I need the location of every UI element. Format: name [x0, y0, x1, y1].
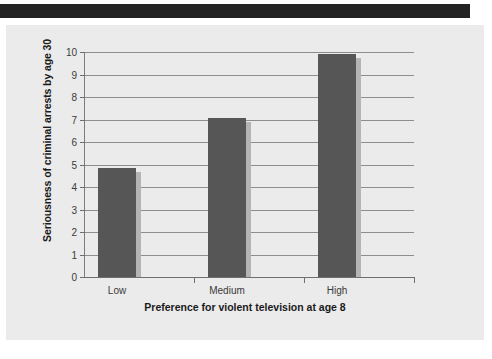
x-tick-label-low: Low [108, 285, 126, 296]
bar-medium[interactable] [208, 118, 246, 277]
y-tick-label: 3 [71, 204, 77, 215]
page-top-banner [0, 4, 470, 18]
y-tick-mark [80, 232, 85, 233]
bar-shadow [136, 172, 141, 277]
y-tick-mark [80, 120, 85, 121]
plot-area: 109876543210LowMediumHigh [84, 52, 414, 277]
y-tick-label: 1 [71, 249, 77, 260]
y-axis-title: Seriousness of criminal arrests by age 3… [39, 42, 55, 242]
y-tick-mark [80, 210, 85, 211]
x-tick-label-medium: Medium [209, 285, 245, 296]
y-tick-mark [80, 187, 85, 188]
y-tick-label: 10 [66, 47, 77, 58]
y-tick-label: 8 [71, 92, 77, 103]
x-tick-label-high: High [327, 285, 348, 296]
y-tick-label: 5 [71, 159, 77, 170]
x-tick-mark [304, 278, 305, 283]
bar-shadow [356, 58, 361, 277]
x-axis-title: Preference for violent television at age… [6, 301, 484, 313]
x-tick-mark [414, 278, 415, 283]
y-tick-label: 7 [71, 114, 77, 125]
y-tick-label: 0 [71, 272, 77, 283]
gridline [84, 52, 414, 53]
y-tick-label: 9 [71, 69, 77, 80]
y-tick-label: 6 [71, 137, 77, 148]
gridline [84, 97, 414, 98]
bar-chart: Seriousness of criminal arrests by age 3… [6, 25, 484, 340]
gridline [84, 120, 414, 121]
bar-low[interactable] [98, 168, 136, 277]
y-tick-mark [80, 255, 85, 256]
y-tick-mark [80, 142, 85, 143]
y-tick-mark [80, 97, 85, 98]
figure-panel: Seriousness of criminal arrests by age 3… [6, 25, 484, 340]
y-tick-mark [80, 165, 85, 166]
x-tick-mark [194, 278, 195, 283]
bar-shadow [246, 122, 251, 277]
x-axis-line [84, 277, 415, 278]
bar-high[interactable] [318, 54, 356, 277]
y-tick-mark [80, 277, 85, 278]
page-root: Seriousness of criminal arrests by age 3… [0, 0, 492, 359]
y-tick-mark [80, 52, 85, 53]
y-tick-mark [80, 75, 85, 76]
gridline [84, 75, 414, 76]
y-tick-label: 2 [71, 227, 77, 238]
y-tick-label: 4 [71, 182, 77, 193]
